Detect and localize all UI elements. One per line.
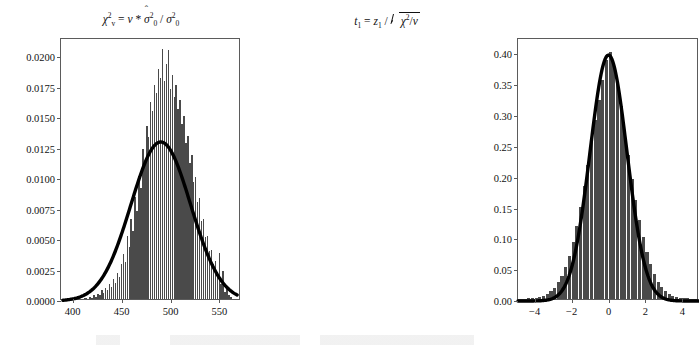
y-axis-tick-label: 0.0200 bbox=[26, 52, 55, 63]
t-subscript: 1 bbox=[357, 21, 361, 30]
x-axis-tick bbox=[682, 299, 683, 303]
y-axis-tick-label: 0.0025 bbox=[26, 265, 55, 276]
chi-square-panel: χ2v = v * ˆσ20 / σ20 0.00000.00250.00500… bbox=[0, 0, 246, 345]
z-subscript: 1 bbox=[378, 21, 382, 30]
t-distribution-panel: t1 = z1 / χ2/v 0.000.050.100.150.200.250… bbox=[240, 0, 474, 345]
y-axis-tick-label: 0.30 bbox=[494, 111, 512, 122]
x-axis-tick-label: −2 bbox=[566, 306, 577, 317]
x-axis-tick-label: 0 bbox=[606, 306, 611, 317]
y-axis-tick bbox=[514, 270, 518, 271]
y-axis-tick bbox=[57, 240, 61, 241]
y-axis-tick bbox=[514, 178, 518, 179]
x-axis-tick-label: 500 bbox=[163, 306, 179, 317]
x-axis-tick-label: 450 bbox=[114, 306, 130, 317]
y-axis-tick-label: 0.0075 bbox=[26, 204, 55, 215]
x-axis-tick bbox=[609, 299, 610, 303]
y-axis-tick-label: 0.00 bbox=[494, 296, 512, 307]
t-distribution-normal-overlay-curve bbox=[518, 39, 699, 301]
y-axis-tick bbox=[514, 147, 518, 148]
y-axis-tick-label: 0.0050 bbox=[26, 235, 55, 246]
y-axis-tick-label: 0.0150 bbox=[26, 113, 55, 124]
sigma-subscript: 0 bbox=[176, 19, 180, 28]
x-axis-tick-label: 4 bbox=[680, 306, 685, 317]
x-axis-tick bbox=[122, 299, 123, 303]
y-axis-tick bbox=[57, 210, 61, 211]
radical-bar: χ2/v bbox=[399, 12, 420, 28]
y-axis-tick-label: 0.25 bbox=[494, 141, 512, 152]
y-axis-tick bbox=[57, 149, 61, 150]
y-axis-tick bbox=[57, 271, 61, 272]
sigma-hat-group: ˆσ bbox=[144, 12, 150, 26]
t-distribution-plot-area: 0.000.050.100.150.200.250.300.350.40 −4−… bbox=[517, 38, 698, 300]
equals-sign: = bbox=[118, 13, 125, 25]
chi-subscript: v bbox=[111, 19, 115, 28]
hat-accent-icon: ˆ bbox=[144, 5, 149, 15]
x-axis-tick-label: −4 bbox=[529, 306, 540, 317]
y-axis-tick bbox=[514, 85, 518, 86]
y-axis-tick bbox=[514, 116, 518, 117]
scan-artifact-strip bbox=[0, 335, 474, 345]
division-slash: / bbox=[385, 15, 388, 27]
y-axis-tick-label: 0.0175 bbox=[26, 82, 55, 93]
y-axis-tick-label: 0.0125 bbox=[26, 143, 55, 154]
equals-sign: = bbox=[364, 15, 371, 27]
radical-sign-icon: χ2/v bbox=[391, 12, 420, 28]
sigma-hat-subscript: 0 bbox=[153, 19, 157, 28]
y-axis-tick bbox=[57, 57, 61, 58]
x-axis-tick bbox=[572, 299, 573, 303]
y-axis-tick bbox=[57, 301, 61, 302]
y-axis-tick-label: 0.15 bbox=[494, 203, 512, 214]
x-axis-tick bbox=[219, 299, 220, 303]
y-axis-tick-label: 0.20 bbox=[494, 172, 512, 183]
division-slash: / bbox=[160, 13, 163, 25]
y-axis-tick bbox=[514, 54, 518, 55]
t-distribution-panel-title: t1 = z1 / χ2/v bbox=[240, 12, 504, 28]
y-axis-tick-label: 0.0100 bbox=[26, 174, 55, 185]
y-axis-tick bbox=[57, 88, 61, 89]
y-axis-tick bbox=[514, 301, 518, 302]
chi-square-panel-title: χ2v = v * ˆσ20 / σ20 bbox=[0, 12, 264, 26]
y-axis-tick-label: 0.40 bbox=[494, 49, 512, 60]
x-axis-tick-label: 550 bbox=[212, 306, 228, 317]
y-axis-tick bbox=[57, 179, 61, 180]
x-axis-tick bbox=[171, 299, 172, 303]
y-axis-tick-label: 0.0000 bbox=[26, 296, 55, 307]
x-axis-tick bbox=[535, 299, 536, 303]
y-axis-tick-label: 0.05 bbox=[494, 265, 512, 276]
chi-square-normal-overlay-curve bbox=[61, 39, 241, 301]
chi-square-plot-area: 0.00000.00250.00500.00750.01000.01250.01… bbox=[60, 38, 240, 300]
v-symbol: v bbox=[413, 15, 418, 27]
y-axis-tick bbox=[514, 209, 518, 210]
x-axis-tick bbox=[645, 299, 646, 303]
x-axis-tick-label: 400 bbox=[65, 306, 81, 317]
y-axis-tick bbox=[57, 118, 61, 119]
y-axis-tick-label: 0.35 bbox=[494, 80, 512, 91]
v-symbol: v bbox=[127, 13, 132, 25]
asterisk-operator: * bbox=[135, 13, 141, 25]
x-axis-tick-label: 2 bbox=[643, 306, 648, 317]
x-axis-tick bbox=[73, 299, 74, 303]
y-axis-tick bbox=[514, 239, 518, 240]
y-axis-tick-label: 0.10 bbox=[494, 234, 512, 245]
